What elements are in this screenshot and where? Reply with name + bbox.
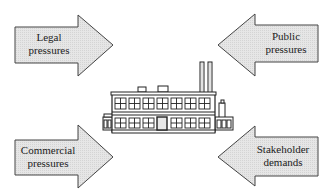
label-line: Legal bbox=[22, 31, 76, 44]
factory-icon bbox=[103, 62, 233, 133]
label-line: pressures bbox=[16, 157, 80, 170]
label-stakeholder-demands: Stakeholder demands bbox=[249, 143, 317, 169]
label-line: pressures bbox=[22, 44, 76, 57]
factory-door bbox=[157, 117, 167, 130]
label-public-pressures: Public pressures bbox=[256, 30, 316, 56]
label-legal-pressures: Legal pressures bbox=[22, 31, 76, 57]
label-line: pressures bbox=[256, 43, 316, 56]
label-commercial-pressures: Commercial pressures bbox=[16, 144, 80, 170]
label-line: demands bbox=[249, 156, 317, 169]
label-line: Public bbox=[256, 30, 316, 43]
label-line: Stakeholder bbox=[249, 143, 317, 156]
label-line: Commercial bbox=[16, 144, 80, 157]
